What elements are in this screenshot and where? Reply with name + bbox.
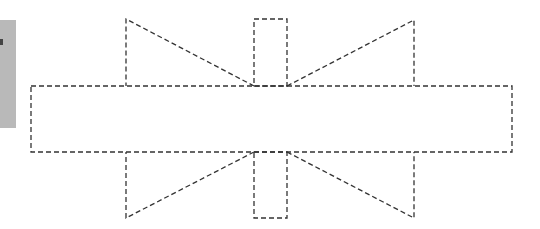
bottom-tab	[254, 152, 287, 218]
top-tab	[254, 19, 287, 86]
bottom-right-triangle	[287, 152, 414, 218]
main-rectangle	[31, 86, 512, 152]
bottom-left-triangle	[126, 152, 254, 218]
dashed-net-diagram	[0, 0, 540, 229]
top-left-triangle	[126, 19, 254, 86]
top-right-triangle	[287, 20, 414, 86]
